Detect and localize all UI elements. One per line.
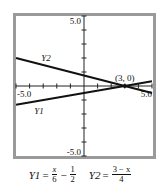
fraction-1-over-2: 1 2 [70,165,76,184]
series-label-y2: Y2 [41,53,51,63]
fraction-denominator: 2 [71,175,75,184]
equals-sign: = [102,169,108,181]
equation-caption: Y1 = x 6 − 1 2 Y2 = 3 − x 4 [0,160,161,189]
fraction-x-over-6: x 6 [52,165,58,184]
y2-name: Y2 [89,169,101,181]
intersection-label: (3, 0) [115,73,135,83]
fraction-denominator: 6 [52,175,56,184]
intersection-point [123,84,127,88]
y1-equation: Y1 = x 6 − 1 2 [29,165,77,184]
y-max-label: 5.0 [70,16,82,26]
y2-equation: Y2 = 3 − x 4 [89,165,132,184]
series-label-y1: Y1 [34,106,44,116]
minus-sign: − [60,169,66,181]
y1-name: Y1 [29,169,41,181]
equals-sign: = [42,169,48,181]
graph-window: 5.0-5.0-5.05.0(3, 0)Y2Y1 [0,0,161,160]
fraction-3-minus-x-over-4: 3 − x 4 [112,165,132,184]
x-max-label: 5.0 [141,89,153,99]
fraction-denominator: 4 [119,175,123,184]
x-min-label: -5.0 [17,89,32,99]
y-min-label: -5.0 [67,147,82,157]
